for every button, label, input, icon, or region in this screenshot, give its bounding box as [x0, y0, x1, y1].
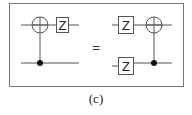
- control-dot-icon: [37, 60, 43, 66]
- z-gate-right-top: Z: [119, 17, 134, 34]
- left-circuit: Z: [21, 17, 79, 66]
- z-gate-left: Z: [57, 18, 69, 34]
- right-circuit: Z Z: [112, 17, 172, 75]
- z-gate-label: Z: [122, 59, 130, 74]
- cnot-target-icon: [32, 17, 48, 33]
- equals-sign: =: [92, 40, 100, 55]
- cnot-target-icon: [146, 17, 162, 33]
- z-gate-label: Z: [122, 18, 130, 33]
- control-dot-icon: [151, 60, 157, 66]
- z-gate-right-bottom: Z: [119, 58, 134, 75]
- z-gate-label: Z: [59, 18, 67, 33]
- figure-caption: (c): [0, 91, 192, 107]
